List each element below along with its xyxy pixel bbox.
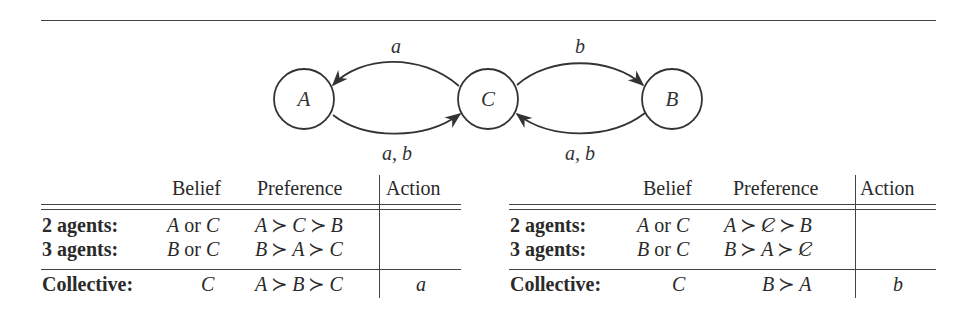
header-preference: Preference	[257, 176, 343, 200]
header-belief: Belief	[643, 176, 692, 200]
state-transition-diagram: A C B a a, b b a, b	[0, 0, 976, 170]
header-action: Action	[386, 176, 440, 200]
action-separator	[855, 175, 856, 298]
edge-a-to-c	[333, 114, 460, 134]
row-belief: B or C	[167, 237, 219, 261]
edge-label-c-to-a: a	[391, 35, 401, 57]
row-preference: A≻C≻B	[255, 213, 343, 237]
row-agent: 2 agents:	[42, 213, 118, 237]
edge-label-b-to-c: a, b	[565, 142, 595, 164]
double-rule-bottom	[41, 209, 461, 210]
double-rule-bottom	[509, 209, 936, 210]
node-b-label: B	[666, 87, 679, 111]
row-agent: Collective:	[510, 272, 601, 296]
cancelled-option: C	[798, 237, 811, 261]
node-c: C	[458, 69, 518, 129]
row-action: b	[893, 272, 903, 296]
row-preference: B≻A≻C	[724, 237, 812, 261]
header-action: Action	[860, 176, 914, 200]
action-separator	[379, 175, 380, 298]
row-belief: A or C	[167, 213, 219, 237]
cancelled-option: C	[761, 213, 774, 237]
row-belief: C	[201, 272, 214, 296]
row-belief: C	[672, 272, 685, 296]
row-agent: Collective:	[42, 272, 133, 296]
edge-c-to-b	[517, 63, 643, 85]
row-preference: A≻C≻B	[724, 213, 812, 237]
node-a-label: A	[296, 87, 311, 111]
row-preference: A≻B≻C	[255, 272, 343, 296]
edge-b-to-c	[517, 113, 645, 133]
row-agent: 2 agents:	[510, 213, 586, 237]
row-belief: B or C	[637, 237, 689, 261]
node-c-label: C	[481, 87, 496, 111]
row-agent: 3 agents:	[42, 237, 118, 261]
table-right: Belief Preference Action 2 agents: A or …	[509, 172, 936, 302]
node-b: B	[642, 69, 702, 129]
edge-c-to-a	[333, 62, 459, 86]
node-a: A	[274, 69, 334, 129]
edge-label-c-to-b: b	[575, 35, 585, 57]
collective-rule	[41, 269, 461, 270]
row-preference: B≻A≻C	[255, 237, 343, 261]
row-belief: A or C	[637, 213, 689, 237]
row-preference: B≻A	[762, 272, 811, 296]
header-preference: Preference	[733, 176, 819, 200]
table-left: Belief Preference Action 2 agents: A or …	[41, 172, 461, 302]
double-rule-top	[509, 204, 936, 205]
double-rule-top	[41, 204, 461, 205]
row-agent: 3 agents:	[510, 237, 586, 261]
collective-rule	[509, 269, 936, 270]
row-action: a	[416, 272, 426, 296]
edge-label-a-to-c: a, b	[382, 142, 412, 164]
header-belief: Belief	[172, 176, 221, 200]
